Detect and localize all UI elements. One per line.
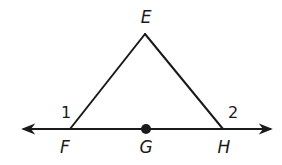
point-label-h: H: [218, 137, 231, 157]
segment-eh: [145, 34, 223, 129]
angle-label-1: 1: [61, 103, 71, 122]
point-label-f: F: [60, 137, 70, 157]
segment-ef: [70, 34, 145, 129]
point-label-e: E: [141, 7, 152, 27]
angle-label-2: 2: [228, 103, 238, 122]
triangle-diagram: E F G H 1 2: [0, 0, 282, 165]
point-label-g: G: [139, 137, 152, 157]
point-g-dot: [141, 124, 151, 134]
